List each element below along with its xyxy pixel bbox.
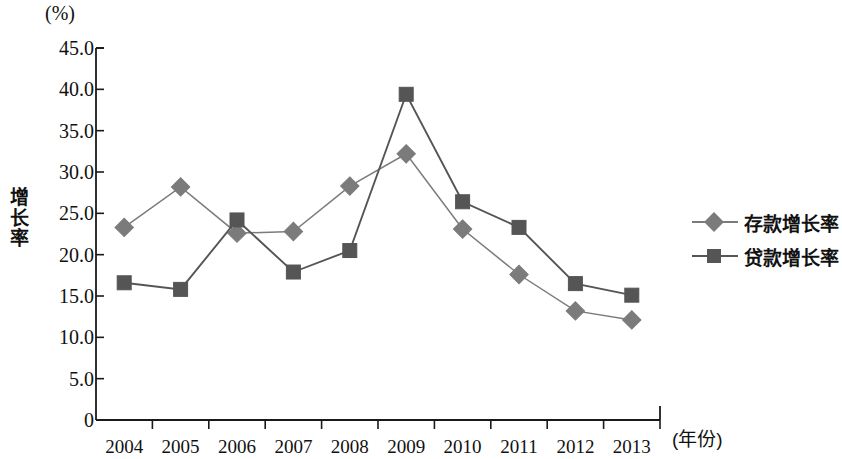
x-axis-title: (年份) <box>672 424 723 451</box>
data-point-diamond <box>566 302 584 320</box>
legend-item-deposit[interactable]: 存款增长率 <box>692 205 842 239</box>
line-chart: (%) 增 长 率 0 5.0 10.0 15.0 20.0 25.0 30.0… <box>0 0 842 459</box>
legend-key-diamond <box>692 213 738 231</box>
series-line <box>124 94 632 295</box>
legend-item-loan[interactable]: 贷款增长率 <box>692 239 842 273</box>
x-tick-label: 2011 <box>500 437 537 456</box>
data-point-square <box>343 244 357 258</box>
data-point-square <box>117 276 131 290</box>
series-loan <box>117 87 639 302</box>
data-point-diamond <box>341 177 359 195</box>
x-tick-label: 2004 <box>105 437 143 456</box>
data-point-square <box>174 282 188 296</box>
x-tick-label: 2012 <box>556 437 594 456</box>
x-tick-label: 2006 <box>218 437 256 456</box>
legend-label-loan: 贷款增长率 <box>738 243 839 270</box>
series-layer <box>115 87 641 329</box>
chart-legend: 存款增长率 贷款增长率 <box>692 205 842 273</box>
data-point-square <box>286 265 300 279</box>
x-tick-label: 2009 <box>387 437 425 456</box>
data-point-diamond <box>623 311 641 329</box>
data-point-diamond <box>115 218 133 236</box>
data-point-diamond <box>453 220 471 238</box>
diamond-marker-icon <box>704 212 724 232</box>
data-point-square <box>568 277 582 291</box>
legend-key-square <box>692 247 738 265</box>
square-marker-icon <box>707 249 721 263</box>
data-point-square <box>625 288 639 302</box>
x-tick-label: 2013 <box>613 437 651 456</box>
data-point-square <box>399 87 413 101</box>
axes <box>96 48 660 429</box>
data-point-diamond <box>510 265 528 283</box>
x-tick-label: 2008 <box>331 437 369 456</box>
x-tick-label: 2007 <box>274 437 312 456</box>
data-point-diamond <box>397 145 415 163</box>
x-tick-label: 2010 <box>444 437 482 456</box>
data-point-diamond <box>171 178 189 196</box>
data-point-square <box>456 195 470 209</box>
series-line <box>124 154 632 320</box>
x-tick-label: 2005 <box>162 437 200 456</box>
data-point-square <box>512 220 526 234</box>
data-point-diamond <box>284 222 302 240</box>
data-point-square <box>230 213 244 227</box>
legend-label-deposit: 存款增长率 <box>738 209 839 236</box>
